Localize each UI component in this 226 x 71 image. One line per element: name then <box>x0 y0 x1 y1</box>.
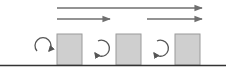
box-2 <box>116 34 141 65</box>
box-1 <box>57 34 82 65</box>
counter-clockwise-rotation-icon <box>154 40 168 56</box>
clockwise-rotation-icon <box>35 38 51 51</box>
counter-clockwise-rotation-icon <box>95 40 109 56</box>
box-3 <box>175 34 200 65</box>
diagram-canvas <box>0 0 226 71</box>
